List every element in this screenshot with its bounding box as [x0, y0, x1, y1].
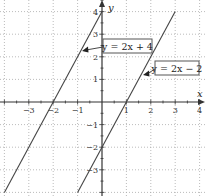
y-axis-label: y [107, 2, 114, 13]
axes [0, 0, 205, 196]
y-tick-label: 1 [93, 75, 98, 84]
x-tick-label: 4 [197, 106, 202, 115]
x-tick-label: 2 [148, 106, 153, 115]
y-tick-label: 4 [93, 8, 98, 17]
line-chart: −3−2−11234−3−2−11234 y = 2x + 4y = 2x − … [0, 0, 205, 196]
y-tick-label: −2 [86, 143, 98, 152]
x-tick-label: −1 [72, 106, 84, 115]
equation-annotations: y = 2x + 4y = 2x − 2 [82, 39, 202, 77]
y-tick-label: 2 [93, 53, 98, 62]
y-tick-label: 3 [93, 30, 98, 39]
equation-label-2: y = 2x − 2 [151, 63, 203, 74]
x-tick-label: −3 [23, 106, 35, 115]
tick-labels: −3−2−11234−3−2−11234 [23, 8, 202, 175]
x-axis-arrow-icon [198, 99, 205, 105]
x-tick-label: 3 [173, 106, 178, 115]
annotation-arrowhead-icon [143, 71, 150, 77]
y-tick-label: −1 [86, 121, 98, 130]
y-axis-arrow-icon [99, 0, 105, 7]
x-tick-label: 1 [124, 106, 129, 115]
annotation-leader-1 [86, 47, 103, 50]
equation-label-1: y = 2x + 4 [101, 41, 153, 52]
x-axis-label: x [197, 88, 203, 99]
